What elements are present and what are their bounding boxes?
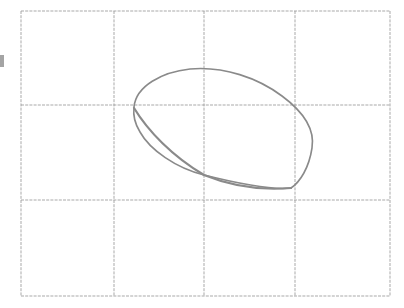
figure-root [0, 0, 404, 308]
edge-artifacts [0, 55, 4, 67]
canvas-background [0, 0, 404, 308]
figure-canvas [0, 0, 404, 308]
left-edge-mark [0, 55, 4, 67]
